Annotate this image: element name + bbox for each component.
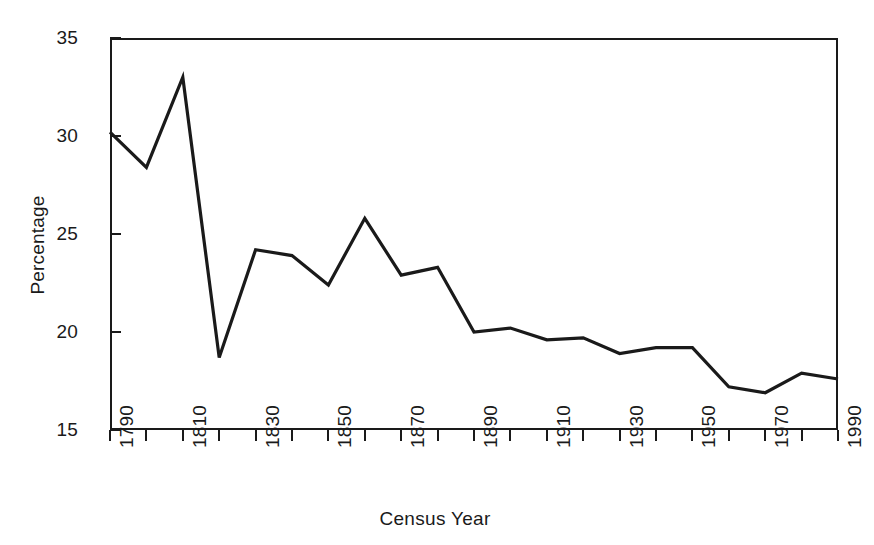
y-axis-tick-mark: [110, 37, 121, 39]
x-axis-tick-mark: [437, 430, 439, 441]
x-axis-tick-mark: [327, 430, 329, 441]
series-polyline: [110, 77, 838, 393]
x-axis-tick-mark: [691, 430, 693, 441]
y-axis-tick-mark: [110, 233, 121, 235]
x-axis-tick-mark: [109, 430, 111, 441]
x-axis-tick-label: 1870: [408, 405, 427, 448]
x-axis-tick-mark: [255, 430, 257, 441]
x-axis-tick-label: 1810: [190, 405, 209, 448]
x-axis-tick-mark: [145, 430, 147, 441]
x-axis-tick-label: 1790: [117, 405, 136, 448]
x-axis-tick-label: 1950: [699, 405, 718, 448]
x-axis-tick-mark: [582, 430, 584, 441]
x-axis-tick-mark: [546, 430, 548, 441]
chart-figure: 3530252015 Percentage 179018101830185018…: [0, 0, 874, 545]
y-axis-tick-label: 20: [56, 322, 78, 341]
x-axis-tick-label: 1850: [335, 405, 354, 448]
x-axis-tick-mark: [218, 430, 220, 441]
x-axis-tick-mark: [619, 430, 621, 441]
x-axis-tick-mark: [509, 430, 511, 441]
y-axis-title: Percentage: [27, 145, 49, 345]
x-axis-tick-mark: [364, 430, 366, 441]
x-axis-tick-mark: [655, 430, 657, 441]
x-axis-tick-mark: [837, 430, 839, 441]
x-axis-tick-label: 1830: [263, 405, 282, 448]
x-axis-tick-label: 1990: [845, 405, 864, 448]
y-axis-tick-label: 15: [56, 420, 78, 439]
x-axis-tick-label: 1910: [554, 405, 573, 448]
data-series-line: [110, 38, 838, 430]
x-axis-tick-mark: [473, 430, 475, 441]
x-axis-title-text: Census Year: [379, 508, 490, 529]
x-axis-tick-mark: [764, 430, 766, 441]
x-axis-tick-mark: [400, 430, 402, 441]
y-axis-tick-mark: [110, 135, 121, 137]
x-axis-tick-label: 1890: [481, 405, 500, 448]
y-axis-tick-label: 35: [56, 28, 78, 47]
x-axis-tick-mark: [801, 430, 803, 441]
y-axis-tick-label: 30: [56, 126, 78, 145]
x-axis-title: Census Year: [0, 508, 874, 530]
x-axis-tick-mark: [182, 430, 184, 441]
x-axis-tick-mark: [728, 430, 730, 441]
x-axis-tick-mark: [291, 430, 293, 441]
x-axis-tick-label: 1930: [627, 405, 646, 448]
y-axis-tick-label: 25: [56, 224, 78, 243]
x-axis-tick-label: 1970: [772, 405, 791, 448]
y-axis-tick-mark: [110, 331, 121, 333]
